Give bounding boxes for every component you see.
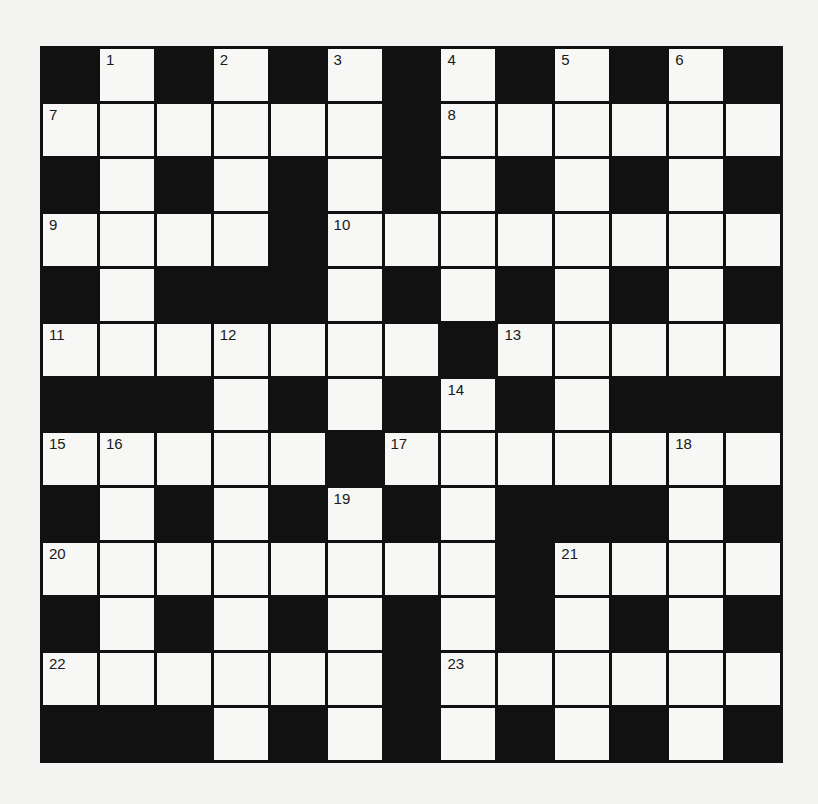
- answer-cell[interactable]: 14: [441, 379, 495, 431]
- answer-cell[interactable]: [100, 104, 154, 156]
- answer-cell[interactable]: [726, 433, 780, 485]
- answer-cell[interactable]: 19: [328, 488, 382, 540]
- answer-cell[interactable]: [669, 159, 723, 211]
- answer-cell[interactable]: [441, 159, 495, 211]
- answer-cell[interactable]: 17: [385, 433, 439, 485]
- answer-cell[interactable]: [100, 543, 154, 595]
- answer-cell[interactable]: [214, 159, 268, 211]
- answer-cell[interactable]: 23: [441, 653, 495, 705]
- answer-cell[interactable]: [385, 214, 439, 266]
- answer-cell[interactable]: 2: [214, 49, 268, 101]
- answer-cell[interactable]: 13: [498, 324, 552, 376]
- answer-cell[interactable]: 18: [669, 433, 723, 485]
- answer-cell[interactable]: [498, 214, 552, 266]
- answer-cell[interactable]: [669, 324, 723, 376]
- answer-cell[interactable]: [612, 543, 666, 595]
- answer-cell[interactable]: [669, 488, 723, 540]
- answer-cell[interactable]: [726, 653, 780, 705]
- answer-cell[interactable]: [214, 488, 268, 540]
- answer-cell[interactable]: 3: [328, 49, 382, 101]
- answer-cell[interactable]: [385, 543, 439, 595]
- answer-cell[interactable]: [498, 433, 552, 485]
- answer-cell[interactable]: 7: [43, 104, 97, 156]
- answer-cell[interactable]: 11: [43, 324, 97, 376]
- answer-cell[interactable]: [100, 214, 154, 266]
- answer-cell[interactable]: [328, 708, 382, 760]
- answer-cell[interactable]: [555, 653, 609, 705]
- answer-cell[interactable]: [555, 104, 609, 156]
- answer-cell[interactable]: [669, 543, 723, 595]
- answer-cell[interactable]: [441, 433, 495, 485]
- answer-cell[interactable]: [669, 214, 723, 266]
- answer-cell[interactable]: [100, 324, 154, 376]
- answer-cell[interactable]: [157, 433, 211, 485]
- answer-cell[interactable]: [328, 379, 382, 431]
- answer-cell[interactable]: [271, 433, 325, 485]
- answer-cell[interactable]: [271, 543, 325, 595]
- answer-cell[interactable]: [669, 269, 723, 321]
- answer-cell[interactable]: [726, 324, 780, 376]
- answer-cell[interactable]: [157, 543, 211, 595]
- answer-cell[interactable]: [271, 324, 325, 376]
- answer-cell[interactable]: [385, 324, 439, 376]
- answer-cell[interactable]: [328, 269, 382, 321]
- answer-cell[interactable]: 15: [43, 433, 97, 485]
- answer-cell[interactable]: [441, 488, 495, 540]
- answer-cell[interactable]: [612, 324, 666, 376]
- answer-cell[interactable]: [328, 324, 382, 376]
- answer-cell[interactable]: [669, 653, 723, 705]
- answer-cell[interactable]: 9: [43, 214, 97, 266]
- answer-cell[interactable]: 5: [555, 49, 609, 101]
- answer-cell[interactable]: [612, 653, 666, 705]
- answer-cell[interactable]: [214, 379, 268, 431]
- answer-cell[interactable]: [328, 653, 382, 705]
- answer-cell[interactable]: [441, 708, 495, 760]
- answer-cell[interactable]: [555, 379, 609, 431]
- answer-cell[interactable]: [726, 214, 780, 266]
- answer-cell[interactable]: [214, 433, 268, 485]
- answer-cell[interactable]: 21: [555, 543, 609, 595]
- answer-cell[interactable]: [157, 324, 211, 376]
- answer-cell[interactable]: 1: [100, 49, 154, 101]
- answer-cell[interactable]: [612, 104, 666, 156]
- answer-cell[interactable]: [441, 543, 495, 595]
- answer-cell[interactable]: [726, 104, 780, 156]
- answer-cell[interactable]: [441, 598, 495, 650]
- answer-cell[interactable]: [328, 598, 382, 650]
- answer-cell[interactable]: [157, 104, 211, 156]
- answer-cell[interactable]: [555, 214, 609, 266]
- answer-cell[interactable]: [328, 159, 382, 211]
- answer-cell[interactable]: [726, 543, 780, 595]
- answer-cell[interactable]: [498, 104, 552, 156]
- answer-cell[interactable]: 12: [214, 324, 268, 376]
- answer-cell[interactable]: [669, 708, 723, 760]
- answer-cell[interactable]: [100, 653, 154, 705]
- answer-cell[interactable]: [555, 708, 609, 760]
- answer-cell[interactable]: 8: [441, 104, 495, 156]
- answer-cell[interactable]: [669, 104, 723, 156]
- answer-cell[interactable]: [555, 269, 609, 321]
- answer-cell[interactable]: [441, 269, 495, 321]
- answer-cell[interactable]: [555, 433, 609, 485]
- answer-cell[interactable]: [214, 708, 268, 760]
- answer-cell[interactable]: [669, 598, 723, 650]
- answer-cell[interactable]: 6: [669, 49, 723, 101]
- answer-cell[interactable]: [612, 214, 666, 266]
- answer-cell[interactable]: [214, 653, 268, 705]
- answer-cell[interactable]: [612, 433, 666, 485]
- answer-cell[interactable]: [498, 653, 552, 705]
- answer-cell[interactable]: [555, 324, 609, 376]
- answer-cell[interactable]: [214, 543, 268, 595]
- answer-cell[interactable]: [271, 653, 325, 705]
- answer-cell[interactable]: [328, 104, 382, 156]
- answer-cell[interactable]: [157, 653, 211, 705]
- answer-cell[interactable]: [214, 598, 268, 650]
- answer-cell[interactable]: [328, 543, 382, 595]
- answer-cell[interactable]: [214, 214, 268, 266]
- answer-cell[interactable]: [100, 159, 154, 211]
- answer-cell[interactable]: [100, 269, 154, 321]
- answer-cell[interactable]: [271, 104, 325, 156]
- answer-cell[interactable]: 22: [43, 653, 97, 705]
- answer-cell[interactable]: 16: [100, 433, 154, 485]
- answer-cell[interactable]: 10: [328, 214, 382, 266]
